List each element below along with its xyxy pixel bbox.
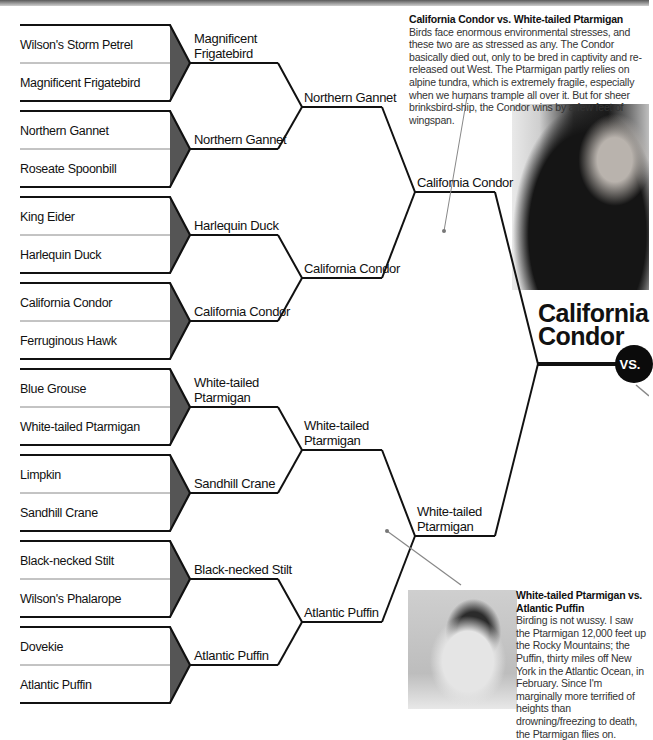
round1-entrant: Black-necked Stilt [20, 554, 114, 569]
round4-winner-1: California Condor [417, 175, 513, 190]
champion-name: California Condor [538, 302, 648, 348]
note-title: California Condor vs. White-tailed Ptarm… [409, 13, 649, 26]
round1-entrant: Blue Grouse [20, 382, 86, 397]
round3-winner-1: Northern Gannet [304, 90, 396, 105]
round2-winner-4: California Condor [194, 304, 290, 319]
note-title: White-tailed Ptarmigan vs. Atlantic Puff… [516, 589, 649, 614]
round3-winner-2: California Condor [304, 261, 400, 276]
round1-entrant: California Condor [20, 296, 112, 311]
round1-entrant: Roseate Spoonbill [20, 162, 116, 177]
round2-winner-1: MagnificentFrigatebird [194, 31, 257, 61]
round1-entrant: King Eider [20, 210, 75, 225]
round2-winner-6: Sandhill Crane [194, 476, 275, 491]
round1-entrant: Limpkin [20, 468, 61, 483]
round2-winner-8: Atlantic Puffin [194, 648, 269, 663]
round1-entrant: Ferruginous Hawk [20, 334, 117, 349]
round3-winner-4: Atlantic Puffin [304, 605, 379, 620]
round1-entrant: Magnificent Frigatebird [20, 76, 140, 91]
round1-entrant: Wilson's Storm Petrel [20, 38, 133, 53]
round1-entrant: Harlequin Duck [20, 248, 101, 263]
round1-entrant: White-tailed Ptarmigan [20, 420, 140, 435]
note-body: Birding is not wussy. I saw the Ptarmiga… [516, 614, 646, 739]
round2-winner-5: White-tailedPtarmigan [194, 375, 259, 405]
round2-winner-2: Northern Gannet [194, 132, 286, 147]
round1-entrant: Wilson's Phalarope [20, 592, 121, 607]
round1-entrant: Sandhill Crane [20, 506, 98, 521]
round2-winner-3: Harlequin Duck [194, 218, 279, 233]
round1-entrant: Northern Gannet [20, 124, 109, 139]
note-condor-vs-ptarmigan: California Condor vs. White-tailed Ptarm… [409, 13, 649, 126]
vs-badge: VS. [615, 345, 653, 383]
round4-winner-2: White-tailedPtarmigan [417, 504, 482, 534]
note-body: Birds face enormous environmental stress… [409, 26, 642, 126]
round1-entrant: Atlantic Puffin [20, 678, 92, 693]
round2-winner-7: Black-necked Stilt [194, 562, 292, 577]
note-ptarmigan-vs-puffin: White-tailed Ptarmigan vs. Atlantic Puff… [516, 589, 649, 740]
round1-entrant: Dovekie [20, 640, 63, 655]
round3-winner-3: White-tailedPtarmigan [304, 418, 369, 448]
